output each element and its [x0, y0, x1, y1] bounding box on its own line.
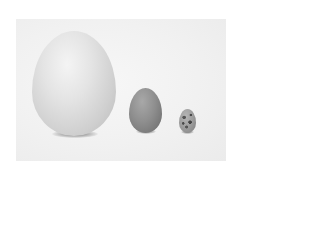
chicken-egg: Medium egg: [129, 88, 162, 133]
quail-egg: Small speckled egg: [179, 109, 196, 133]
